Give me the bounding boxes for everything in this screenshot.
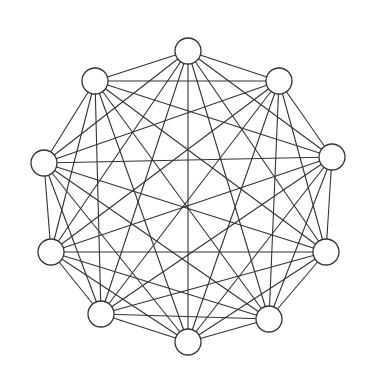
graph-node-n6 [175,329,201,355]
graph-edge-n5-n9 [44,163,269,319]
graph-edge-n6-n7 [101,314,188,342]
graph-edge-n2-n6 [188,81,279,342]
graph-edge-n1-n3 [188,51,332,157]
graph-edge-n7-n10 [95,81,101,314]
graph-edge-n1-n2 [188,51,279,81]
graph-edge-n1-n9 [44,51,188,163]
graph-node-n2 [266,68,292,94]
graph-edge-n2-n9 [44,81,279,163]
graph-edge-n4-n9 [44,163,326,252]
graph-node-n10 [82,68,108,94]
graph-edge-n5-n7 [101,314,269,319]
complete-graph-diagram [0,0,371,381]
graph-edge-n9-n10 [44,81,95,163]
graph-edge-n8-n10 [51,81,95,252]
graph-node-n8 [38,239,64,265]
graph-node-n1 [175,38,201,64]
graph-edge-n1-n10 [95,51,188,81]
graph-node-n7 [88,301,114,327]
graph-edge-n2-n3 [279,81,332,157]
graph-edge-n4-n6 [188,252,326,342]
graph-node-n3 [319,144,345,170]
graph-edge-n3-n10 [95,81,332,157]
graph-node-n5 [256,306,282,332]
graph-node-n9 [31,150,57,176]
graph-edge-n3-n7 [101,157,332,314]
edge-group [44,51,332,342]
graph-edge-n3-n8 [51,157,332,252]
graph-edge-n6-n8 [51,252,188,342]
graph-edge-n4-n7 [101,252,326,314]
graph-node-n4 [313,239,339,265]
